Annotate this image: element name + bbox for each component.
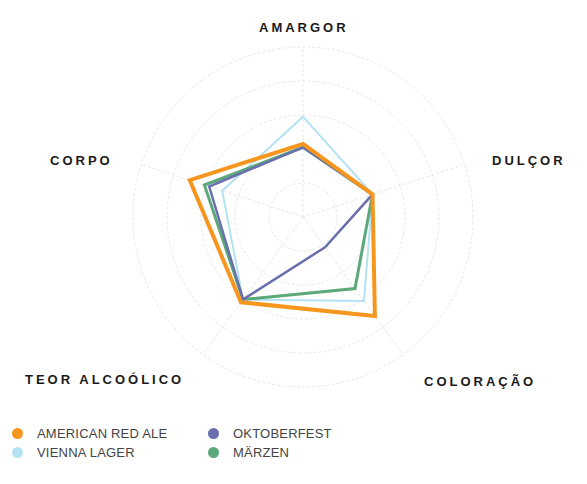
legend-item-marzen[interactable]: MÄRZEN	[208, 445, 368, 460]
axis-label-teor-alcoolico: TEOR ALCOÓLICO	[25, 372, 184, 387]
legend-label: MÄRZEN	[233, 445, 289, 460]
series-oktoberfest[interactable]	[209, 147, 372, 299]
legend-label: AMERICAN RED ALE	[37, 426, 167, 441]
legend-dot-icon	[208, 447, 219, 458]
axis-label-amargor: AMARGOR	[259, 20, 349, 35]
axis-label-coloracao: COLORAÇÃO	[424, 374, 536, 389]
legend-label: VIENNA LAGER	[37, 445, 135, 460]
legend-item-oktoberfest[interactable]: OKTOBERFEST	[208, 426, 368, 441]
legend-dot-icon	[208, 428, 219, 439]
axis-label-dulcor: DULÇOR	[492, 153, 566, 168]
legend-dot-icon	[12, 447, 23, 458]
radar-chart	[0, 0, 587, 484]
legend: AMERICAN RED ALE OKTOBERFEST VIENNA LAGE…	[12, 426, 368, 460]
grid-spoke	[203, 217, 303, 355]
legend-item-american-red-ale[interactable]: AMERICAN RED ALE	[12, 426, 208, 441]
legend-dot-icon	[12, 428, 23, 439]
legend-item-vienna-lager[interactable]: VIENNA LAGER	[12, 445, 208, 460]
grid-spoke	[303, 164, 465, 217]
axis-label-corpo: CORPO	[50, 153, 113, 168]
legend-label: OKTOBERFEST	[233, 426, 332, 441]
grid-spoke	[303, 217, 403, 355]
